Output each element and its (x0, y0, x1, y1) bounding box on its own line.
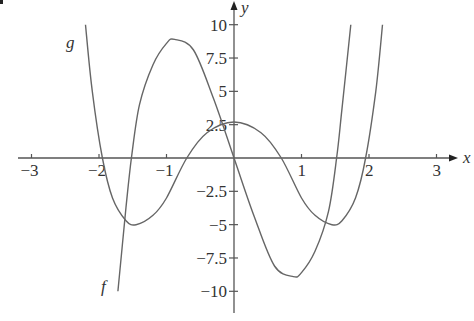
y-tick-label: −5 (209, 216, 227, 235)
y-tick-label: 7.5 (206, 49, 227, 68)
y-axis-label: y (239, 0, 249, 17)
y-tick-label: 10 (210, 16, 227, 35)
y-axis-arrow-icon (231, 1, 238, 10)
curve-g-label: g (66, 33, 75, 52)
curve-f-label: f (101, 277, 108, 296)
y-tick-label: −10 (200, 282, 227, 301)
axes (18, 1, 458, 313)
function-plot: −3−2−1123107.552.5−2.5−5−7.5−10 x y g f (0, 0, 474, 321)
x-tick-label: 1 (298, 161, 307, 180)
y-tick-label: 5 (219, 82, 228, 101)
x-axis-label: x (462, 148, 471, 167)
y-tick-label: −7.5 (196, 249, 227, 268)
x-tick-label: 3 (433, 161, 442, 180)
x-tick-label: −1 (156, 161, 174, 180)
x-tick-label: −3 (21, 161, 39, 180)
y-tick-label: −2.5 (196, 182, 227, 201)
x-axis-arrow-icon (449, 155, 458, 162)
x-tick-label: 2 (365, 161, 374, 180)
